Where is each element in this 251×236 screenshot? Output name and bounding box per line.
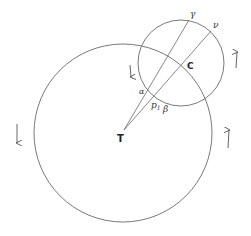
label-nu: ν	[213, 20, 219, 30]
label-alpha: α	[139, 87, 145, 96]
label-beta: β	[162, 104, 168, 114]
label-C: C	[187, 61, 194, 71]
line-T-gamma	[124, 20, 189, 130]
arrow-inner-down-icon	[130, 65, 131, 77]
arrow-right-up-icon	[228, 130, 229, 148]
diagram-canvas: T C γ ν α p1 β	[0, 0, 251, 236]
arrow-small-right-up-icon	[236, 52, 237, 68]
line-T-nu	[124, 31, 211, 130]
label-p1: p1	[151, 100, 161, 111]
label-p1-subscript: 1	[157, 104, 161, 111]
label-T: T	[117, 133, 124, 144]
label-gamma: γ	[190, 9, 196, 19]
